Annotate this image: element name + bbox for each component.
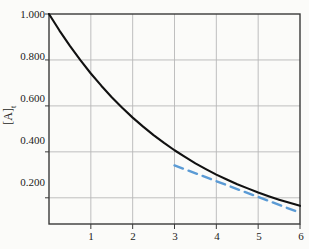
chart-figure: [A]t 1.000 0.800 0.600 0.400 0.200 1 2 3… xyxy=(0,0,309,249)
gridlines xyxy=(49,14,300,224)
plot-area xyxy=(0,0,309,249)
axis-ticks xyxy=(45,14,300,229)
